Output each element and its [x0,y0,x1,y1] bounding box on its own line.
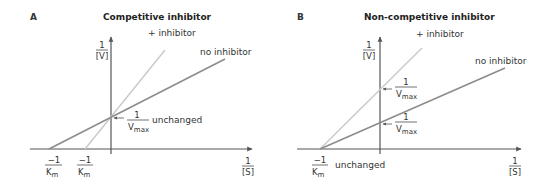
svg-text:[S]: [S] [242,167,254,177]
y-intercept-label-no-inhibitor: 1 Vmax [383,112,417,136]
svg-text:Km: Km [46,167,59,179]
x-intercept-label-inhibitor: −1 Km [77,155,93,179]
svg-text:1: 1 [245,156,250,166]
lineweaver-burk-diagrams: A Competitive inhibitor 1 [V] 1 [S] + in… [0,0,544,185]
no-inhibitor-line [49,59,225,149]
svg-text:1: 1 [366,40,371,50]
y-axis-label: 1 [V] [363,40,375,61]
panel-letter-a: A [30,12,37,22]
panel-letter-b: B [297,12,304,22]
svg-text:[S]: [S] [509,167,521,177]
svg-text:−1: −1 [314,155,327,165]
no-inhibitor-line-label: no inhibitor [200,47,252,57]
svg-text:[V]: [V] [96,51,108,61]
unchanged-note: unchanged [152,115,202,125]
svg-text:−1: −1 [79,155,92,165]
no-inhibitor-line-label: no inhibitor [475,56,527,66]
panel-b: B Non-competitive inhibitor 1 [V] 1 [S] … [297,12,527,179]
svg-text:1: 1 [134,110,139,120]
svg-text:1: 1 [403,112,408,122]
y-axis-label: 1 [V] [96,40,108,61]
x-axis-label: 1 [S] [509,156,521,177]
panel-a-title: Competitive inhibitor [103,12,212,22]
unchanged-note: unchanged [335,160,385,170]
x-intercept-label: −1 Km unchanged [312,155,385,179]
panel-a: A Competitive inhibitor 1 [V] 1 [S] + in… [30,12,254,179]
y-intercept-label: 1 Vmax unchanged [114,110,202,134]
svg-text:Km: Km [78,167,91,179]
inhibitor-line-label: + inhibitor [416,29,464,39]
svg-text:−1: −1 [48,155,61,165]
svg-text:Vmax: Vmax [396,89,417,101]
panel-b-title: Non-competitive inhibitor [364,12,495,22]
svg-text:1: 1 [512,156,517,166]
svg-text:1: 1 [403,77,408,87]
x-intercept-label-no-inhibitor: −1 Km [45,155,62,179]
svg-text:Vmax: Vmax [396,124,417,136]
svg-text:Vmax: Vmax [128,122,149,134]
inhibitor-line [85,50,165,149]
inhibitor-line-label: + inhibitor [148,28,196,38]
svg-text:1: 1 [99,40,104,50]
x-axis-label: 1 [S] [242,156,254,177]
svg-text:[V]: [V] [363,51,375,61]
svg-text:Km: Km [312,167,325,179]
no-inhibitor-line [320,68,505,149]
